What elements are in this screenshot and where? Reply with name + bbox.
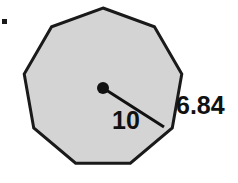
center-point-dot-icon	[97, 82, 109, 94]
radius-length-label: 10	[112, 106, 140, 134]
geometry-figure-canvas: 10 6.84	[0, 0, 238, 183]
bullet-square-icon	[2, 19, 7, 24]
side-length-label: 6.84	[176, 91, 225, 119]
nonagon-diagram-svg: 10 6.84	[0, 0, 238, 183]
